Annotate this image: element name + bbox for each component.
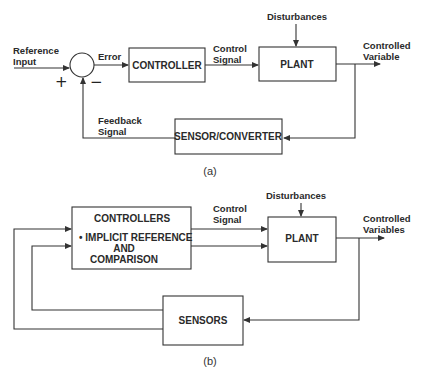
controlled-variable-label: Controlled — [363, 40, 411, 51]
caption-a: (a) — [203, 165, 216, 177]
control-signal-label-b-line2: Signal — [213, 214, 242, 225]
closed-loop-diagram-a: Reference Input + − Error CONTROLLER Con… — [13, 11, 411, 177]
control-signal-label-line2: Signal — [213, 54, 242, 65]
caption-b: (b) — [203, 355, 216, 367]
disturbances-label-b: Disturbances — [266, 190, 326, 201]
controllers-note-line2: AND — [113, 243, 135, 254]
feedback-signal-label-line2: Signal — [98, 126, 127, 137]
disturbances-label: Disturbances — [267, 11, 327, 22]
sensor-converter-label: SENSOR/CONVERTER — [174, 131, 283, 142]
controlled-variables-label: Controlled — [363, 213, 411, 224]
sensors-label: SENSORS — [179, 315, 228, 326]
control-loop-figure: Reference Input + − Error CONTROLLER Con… — [0, 0, 422, 381]
controllers-note-line1: • IMPLICIT REFERENCE — [79, 232, 193, 243]
control-signal-label-b: Control — [213, 203, 247, 214]
plant-label-b: PLANT — [285, 233, 318, 244]
error-label: Error — [98, 51, 122, 62]
plant-label: PLANT — [280, 59, 313, 70]
plus-sign: + — [55, 73, 68, 91]
reference-input-label: Reference — [13, 45, 59, 56]
controllers-label: CONTROLLERS — [94, 213, 170, 224]
controller-label: CONTROLLER — [132, 60, 202, 71]
reference-input-label-line2: Input — [13, 56, 37, 67]
controlled-variable-label-line2: Variable — [363, 51, 399, 62]
control-signal-label: Control — [213, 43, 247, 54]
minus-sign: − — [90, 73, 103, 91]
controlled-variables-label-line2: Variables — [363, 224, 405, 235]
controllers-note-line3: COMPARISON — [90, 254, 158, 265]
closed-loop-diagram-b: CONTROLLERS • IMPLICIT REFERENCE AND COM… — [14, 190, 411, 367]
feedback-signal-label: Feedback — [98, 115, 143, 126]
